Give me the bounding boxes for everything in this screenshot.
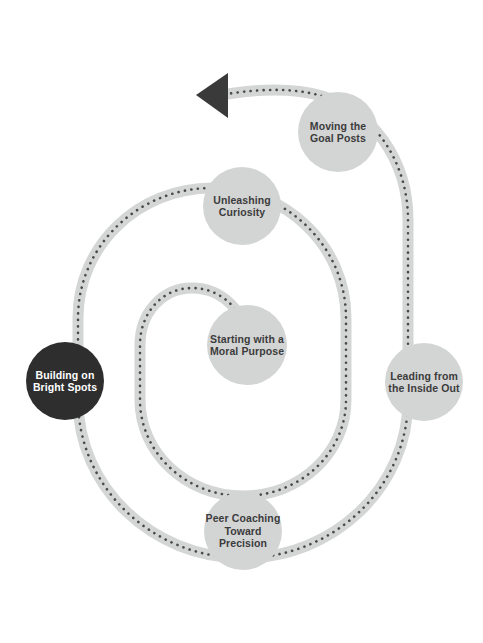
node-circle-peer-coaching-precision[interactable] <box>204 492 282 570</box>
node-circle-leading-inside-out[interactable] <box>385 343 463 421</box>
spiral-graphic <box>0 0 483 643</box>
node-circle-moving-goal-posts[interactable] <box>298 92 378 172</box>
node-circle-building-bright-spots[interactable] <box>26 342 104 420</box>
spiral-diagram: Starting with a Moral Purpose Unleashing… <box>0 0 483 643</box>
node-circle-starting-moral-purpose[interactable] <box>207 305 287 385</box>
node-circle-unleashing-curiosity[interactable] <box>203 167 281 245</box>
spiral-end-arrowhead <box>196 73 228 118</box>
